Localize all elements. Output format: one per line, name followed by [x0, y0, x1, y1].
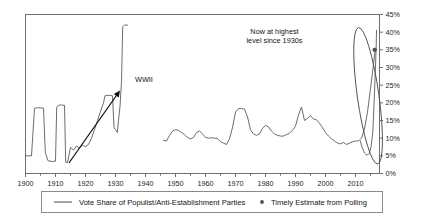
y-tick-label: 40% [386, 28, 401, 37]
chart-container: 0%5%10%15%20%25%30%35%40%45% 19001910192… [0, 0, 424, 223]
y-tick-label: 15% [386, 116, 401, 125]
x-tick-label: 1990 [288, 179, 304, 188]
x-tick-label: 1980 [258, 179, 274, 188]
x-tick-label: 2010 [348, 179, 364, 188]
highlight-ellipse [348, 26, 389, 165]
wwii-annotation-label: WWII [135, 75, 153, 84]
x-tick-label: 1930 [108, 179, 124, 188]
x-tick-label: 1910 [48, 179, 64, 188]
x-tick-label: 1900 [18, 179, 34, 188]
now-highest-annotation-line-2: level since 1930s [247, 36, 303, 45]
x-tick-label: 1960 [198, 179, 214, 188]
x-axis: 1900191019201930194019501960197019801990… [18, 174, 371, 189]
x-tick-label: 1970 [228, 179, 244, 188]
legend-dot-swatch-icon [260, 200, 264, 204]
y-tick-label: 20% [386, 98, 401, 107]
y-tick-label: 5% [386, 151, 397, 160]
y-axis: 0%5%10%15%20%25%30%35%40%45% [380, 10, 401, 178]
legend: Vote Share of Populist/Anti-Establishmen… [42, 192, 383, 213]
data-series-group [26, 25, 377, 162]
x-tick-label: 1940 [138, 179, 154, 188]
y-tick-label: 45% [386, 10, 401, 19]
legend-label-polling-estimate: Timely Estimate from Polling [271, 198, 367, 207]
highlight-ellipse-group [348, 26, 389, 165]
x-tick-label: 1920 [78, 179, 94, 188]
rising-trend-arrow [69, 90, 120, 162]
legend-label-vote-share: Vote Share of Populist/Anti-Establishmen… [79, 198, 246, 207]
x-tick-label: 2000 [318, 179, 334, 188]
y-tick-label: 35% [386, 45, 401, 54]
series-line-pre-war [26, 25, 128, 162]
series-line-post-war [164, 48, 376, 144]
x-tick-label: 1950 [168, 179, 184, 188]
now-highest-annotation-line-1: Now at highest [250, 27, 298, 36]
y-tick-label: 0% [386, 169, 397, 178]
y-tick-label: 10% [386, 134, 401, 143]
polling-estimate-dot [373, 48, 377, 52]
trend-arrow-head [114, 90, 120, 97]
polling-estimate-marker-group [373, 48, 377, 52]
y-tick-label: 30% [386, 63, 401, 72]
populist-vote-share-chart: 0%5%10%15%20%25%30%35%40%45% 19001910192… [0, 0, 424, 223]
y-tick-label: 25% [386, 81, 401, 90]
trend-arrow-shaft [69, 94, 118, 163]
